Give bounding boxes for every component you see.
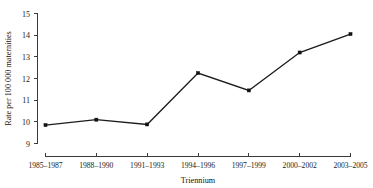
x-axis: 1985–1987 1988–1990 1991–1993 1994–1996 … — [28, 153, 367, 186]
series-markers — [44, 33, 352, 127]
line-chart: 15 14 13 12 11 10 9 Rate per 100 000 mat… — [0, 0, 373, 188]
data-point-marker — [146, 123, 149, 126]
x-tick-label: 1985–1987 — [28, 161, 62, 170]
x-tick-label: 1991–1993 — [130, 161, 164, 170]
y-axis-tick-labels: 15 14 13 12 11 10 9 — [22, 10, 30, 149]
y-tick-label: 12 — [22, 75, 30, 84]
y-axis-title: Rate per 100 000 maternities — [4, 31, 13, 126]
x-axis-ticks — [46, 153, 351, 157]
y-tick-label: 11 — [22, 96, 30, 105]
data-point-marker — [196, 72, 199, 75]
data-series — [44, 33, 352, 127]
x-axis-title: Triennium — [181, 176, 216, 185]
y-tick-label: 14 — [22, 31, 30, 40]
data-point-marker — [247, 89, 250, 92]
x-tick-label: 1994–1996 — [181, 161, 215, 170]
data-point-marker — [95, 118, 98, 121]
data-point-marker — [349, 33, 352, 36]
series-line-rate — [46, 34, 351, 125]
y-tick-label: 15 — [22, 10, 30, 19]
x-axis-tick-labels: 1985–1987 1988–1990 1991–1993 1994–1996 … — [28, 161, 367, 170]
x-tick-label: 2003–2005 — [333, 161, 367, 170]
y-tick-label: 13 — [22, 53, 30, 62]
x-tick-label: 2000–2002 — [283, 161, 317, 170]
y-axis: 15 14 13 12 11 10 9 Rate per 100 000 mat… — [4, 10, 38, 149]
y-tick-label: 9 — [26, 140, 30, 149]
data-point-marker — [44, 124, 47, 127]
y-axis-ticks — [34, 14, 38, 144]
chart-canvas: 15 14 13 12 11 10 9 Rate per 100 000 mat… — [0, 0, 373, 188]
data-point-marker — [298, 51, 301, 54]
y-tick-label: 10 — [22, 118, 30, 127]
x-tick-label: 1997–1999 — [232, 161, 266, 170]
x-tick-label: 1988–1990 — [79, 161, 113, 170]
